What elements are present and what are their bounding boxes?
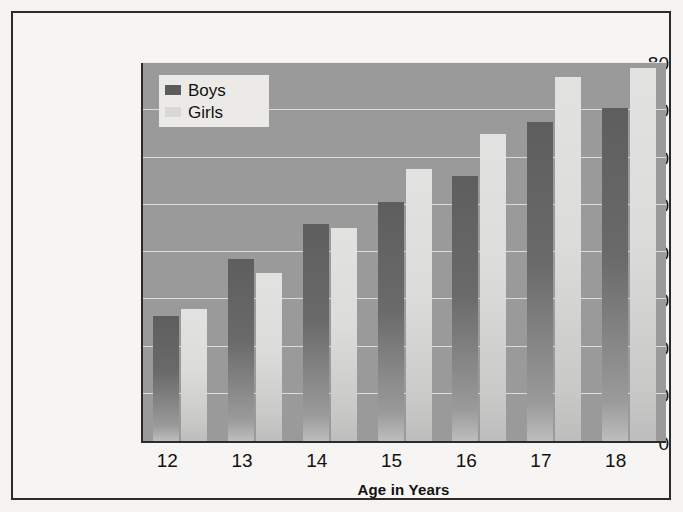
bar-boys-age-18	[602, 108, 628, 441]
x-tick-12: 12	[137, 450, 197, 472]
bar-girls-age-17	[555, 77, 581, 441]
bar-boys-age-15	[378, 202, 404, 441]
bar-girls-age-14	[331, 228, 357, 441]
girls-swatch-icon	[165, 107, 181, 117]
x-tick-16: 16	[436, 450, 496, 472]
legend-item-boys: Boys	[165, 79, 263, 101]
x-tick-13: 13	[212, 450, 272, 472]
bar-boys-age-12	[153, 316, 179, 441]
legend-label-boys: Boys	[188, 82, 226, 99]
boys-swatch-icon	[165, 85, 181, 95]
bar-girls-age-18	[630, 68, 656, 441]
gridline-60	[143, 157, 666, 158]
bar-boys-age-17	[527, 122, 553, 441]
x-tick-15: 15	[362, 450, 422, 472]
x-tick-17: 17	[511, 450, 571, 472]
x-axis-title: Age in Years	[141, 481, 666, 498]
chart-legend: Boys Girls	[159, 75, 269, 127]
x-tick-18: 18	[586, 450, 646, 472]
bar-boys-age-16	[452, 176, 478, 441]
bar-girls-age-13	[256, 273, 282, 441]
bar-boys-age-14	[303, 224, 329, 441]
chart-figure: Percentage Reporting a Romantic Relation…	[0, 0, 683, 512]
x-tick-14: 14	[287, 450, 347, 472]
gridline-20	[143, 346, 666, 347]
legend-label-girls: Girls	[188, 104, 223, 121]
bar-boys-age-13	[228, 259, 254, 441]
legend-item-girls: Girls	[165, 101, 263, 123]
gridline-40	[143, 251, 666, 252]
bar-girls-age-15	[406, 169, 432, 441]
bar-girls-age-16	[480, 134, 506, 441]
bar-girls-age-12	[181, 309, 207, 441]
plot-area: Boys Girls	[141, 63, 666, 443]
gridline-50	[143, 204, 666, 205]
gridline-30	[143, 298, 666, 299]
gridline-80	[143, 62, 666, 63]
gridline-10	[143, 393, 666, 394]
figure-border: Percentage Reporting a Romantic Relation…	[11, 11, 671, 500]
